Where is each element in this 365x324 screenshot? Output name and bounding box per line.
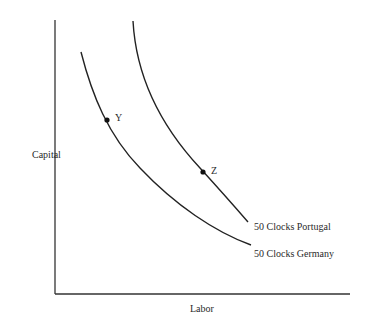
germany-curve-label: 50 Clocks Germany bbox=[254, 248, 334, 259]
portugal-isoquant-curve bbox=[133, 21, 248, 222]
point-z-label: Z bbox=[211, 165, 217, 176]
point-y-label: Y bbox=[115, 112, 122, 123]
portugal-curve-label: 50 Clocks Portugal bbox=[254, 221, 331, 232]
isoquant-diagram bbox=[0, 0, 365, 324]
point-y-marker bbox=[104, 117, 109, 122]
germany-isoquant-curve bbox=[81, 52, 251, 245]
point-z-marker bbox=[200, 169, 205, 174]
x-axis-label: Labor bbox=[190, 303, 214, 314]
y-axis-label: Capital bbox=[32, 149, 61, 160]
